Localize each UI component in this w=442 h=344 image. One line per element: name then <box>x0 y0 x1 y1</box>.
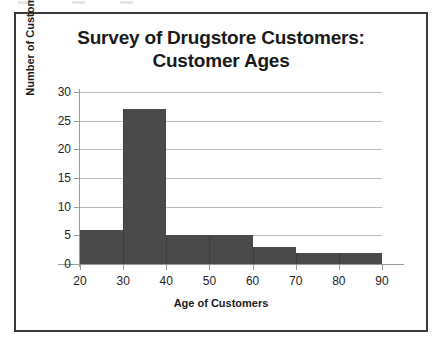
bar-series <box>80 92 382 264</box>
x-tick-label-30: 30 <box>116 274 129 288</box>
x-tick-20 <box>80 264 81 270</box>
y-tick-label-5: 5 <box>64 228 71 242</box>
y-tick-10 <box>74 207 80 208</box>
x-tick-40 <box>166 264 167 270</box>
x-tick-80 <box>339 264 340 270</box>
x-tick-label-60: 60 <box>246 274 259 288</box>
y-tick-label-15: 15 <box>58 171 71 185</box>
x-tick-70 <box>296 264 297 270</box>
y-axis-title: Number of Customers <box>24 0 40 124</box>
x-tick-label-80: 80 <box>332 274 345 288</box>
x-tick-label-70: 70 <box>289 274 302 288</box>
y-tick-30 <box>74 92 80 93</box>
scan-artifact <box>72 1 85 4</box>
y-tick-5 <box>74 235 80 236</box>
x-tick-label-20: 20 <box>73 274 86 288</box>
x-tick-60 <box>253 264 254 270</box>
bar-70-80 <box>296 253 339 264</box>
x-tick-30 <box>123 264 124 270</box>
bar-40-50 <box>166 235 209 264</box>
y-tick-25 <box>74 121 80 122</box>
y-tick-label-25: 25 <box>58 114 71 128</box>
bar-80-90 <box>339 253 382 264</box>
chart-title-line-2: Customer Ages <box>16 49 426 72</box>
bar-50-60 <box>209 235 252 264</box>
chart-frame: Survey of Drugstore Customers: Customer … <box>14 12 428 332</box>
y-tick-label-30: 30 <box>58 85 71 99</box>
x-tick-label-90: 90 <box>375 274 388 288</box>
y-tick-15 <box>74 178 80 179</box>
y-tick-label-20: 20 <box>58 142 71 156</box>
plot-area: 0510152025302030405060708090 <box>80 92 382 264</box>
chart-title-line-1: Survey of Drugstore Customers: <box>16 26 426 49</box>
y-tick-20 <box>74 149 80 150</box>
bar-20-30 <box>80 230 123 264</box>
bar-60-70 <box>253 247 296 264</box>
x-tick-90 <box>382 264 383 270</box>
bar-30-40 <box>123 109 166 264</box>
y-tick-label-10: 10 <box>58 200 71 214</box>
scan-artifact <box>120 1 133 4</box>
x-axis-line <box>58 264 404 265</box>
y-tick-label-0: 0 <box>64 257 71 271</box>
x-tick-label-40: 40 <box>160 274 173 288</box>
x-axis-title: Age of Customers <box>16 297 426 309</box>
x-tick-50 <box>209 264 210 270</box>
x-tick-label-50: 50 <box>203 274 216 288</box>
chart-title: Survey of Drugstore Customers: Customer … <box>16 26 426 72</box>
